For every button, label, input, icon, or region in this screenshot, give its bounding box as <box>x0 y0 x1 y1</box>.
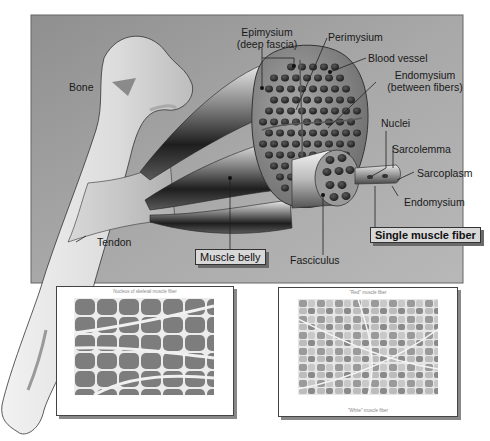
fasciculus-cell <box>346 166 355 174</box>
fiber-cell <box>314 97 322 104</box>
fiber-cell <box>265 152 273 159</box>
fiber-cell <box>303 141 311 148</box>
fiber-cell <box>314 141 322 148</box>
label-sarcolemma: Sarcolemma <box>392 143 451 155</box>
fiber-cell <box>342 130 350 137</box>
fiber-cell <box>270 97 278 104</box>
fiber-cell <box>281 185 289 192</box>
fiber-cell <box>331 108 339 115</box>
label-sarcoplasm: Sarcoplasm <box>417 167 472 179</box>
fiber-cell <box>281 97 289 104</box>
label-endomysium-between-line1: Endomysium <box>375 69 475 81</box>
fiber-cell <box>259 141 267 148</box>
fasciculus-cell <box>335 167 344 175</box>
micrograph-skeletal-fiber: Nucleus of skeletal muscle fiber <box>56 286 234 416</box>
fiber-cell <box>281 141 289 148</box>
fiber-cell <box>265 130 273 137</box>
fiber-cell <box>265 86 273 93</box>
fiber-cell <box>287 108 295 115</box>
fiber-cell <box>303 97 311 104</box>
fiber-cell <box>342 86 350 93</box>
label-perimysium: Perimysium <box>328 31 383 43</box>
label-epimysium: Epimysium (deep fascia) <box>232 26 302 50</box>
fasciculus-cell <box>326 181 335 189</box>
fiber-cell <box>325 141 333 148</box>
fiber-cell <box>292 75 300 82</box>
micrograph-red-white-fibers: "Red" muscle fiber "White" muscle fiber <box>278 287 458 417</box>
fiber-cell <box>287 86 295 93</box>
fiber-cell <box>309 86 317 93</box>
fiber-cell <box>320 86 328 93</box>
fiber-cell <box>336 141 344 148</box>
fiber-cell <box>276 152 284 159</box>
micrograph-2-image <box>298 299 438 395</box>
fiber-cell <box>320 130 328 137</box>
fiber-cell <box>309 130 317 137</box>
fiber-cell <box>320 64 328 71</box>
fiber-cell <box>287 130 295 137</box>
fasciculus-cell <box>338 181 347 189</box>
label-epimysium-line1: Epimysium <box>232 26 302 38</box>
fiber-cell <box>265 108 273 115</box>
label-endomysium: Endomysium <box>404 196 465 208</box>
label-endomysium-between-line2: (between fibers) <box>375 81 475 93</box>
fiber-cell <box>287 152 295 159</box>
fasciculus-cell <box>326 156 335 164</box>
fiber-cell <box>298 64 306 71</box>
label-nuclei: Nuclei <box>381 117 410 129</box>
fasciculus-cell <box>342 192 351 200</box>
label-epimysium-line2: (deep fascia) <box>232 38 302 50</box>
fiber-cell <box>276 130 284 137</box>
fiber-cell <box>331 130 339 137</box>
label-fasciculus: Fasciculus <box>290 254 340 266</box>
fiber-cell <box>325 97 333 104</box>
fiber-cell <box>314 75 322 82</box>
fiber-cell <box>347 97 355 104</box>
fiber-cell <box>336 75 344 82</box>
label-tendon: Tendon <box>97 236 131 248</box>
micrograph-1-caption-top: Nucleus of skeletal muscle fiber <box>57 289 233 294</box>
fiber-cell <box>270 75 278 82</box>
label-bone: Bone <box>69 81 94 93</box>
micrograph-2-caption-bottom: "White" muscle fiber <box>279 408 457 413</box>
fiber-cell <box>320 108 328 115</box>
fiber-cell <box>336 97 344 104</box>
label-blood-vessel: Blood vessel <box>368 52 428 64</box>
fiber-cell <box>347 141 355 148</box>
fiber-cell <box>270 119 278 126</box>
fiber-cell <box>281 75 289 82</box>
label-muscle-belly: Muscle belly <box>195 249 266 265</box>
label-single-muscle-fiber: Single muscle fiber <box>370 227 481 243</box>
fiber-cell <box>270 163 278 170</box>
label-endomysium-between: Endomysium (between fibers) <box>375 69 475 93</box>
fiber-cell <box>303 119 311 126</box>
fiber-cell <box>353 108 361 115</box>
fiber-cell <box>309 108 317 115</box>
fasciculus-cell <box>330 193 339 201</box>
fiber-cell <box>276 108 284 115</box>
fiber-cell <box>276 174 284 181</box>
micrograph-1-image <box>74 298 214 395</box>
fasciculus-cell <box>323 168 332 176</box>
micrograph-2-caption-top: "Red" muscle fiber <box>279 290 457 295</box>
nucleus-2 <box>382 174 388 178</box>
fiber-cell <box>259 119 267 126</box>
fiber-cell <box>292 97 300 104</box>
fasciculus-cell <box>338 154 347 162</box>
fiber-cell <box>353 130 361 137</box>
fiber-cell <box>325 75 333 82</box>
muscle-anatomy-figure: Bone Tendon Epimysium (deep fascia) Peri… <box>0 0 490 441</box>
fiber-cell <box>270 141 278 148</box>
fiber-cell <box>281 163 289 170</box>
fiber-cell <box>331 86 339 93</box>
fiber-cell <box>276 86 284 93</box>
single-fiber <box>355 165 401 184</box>
fiber-cell <box>292 141 300 148</box>
